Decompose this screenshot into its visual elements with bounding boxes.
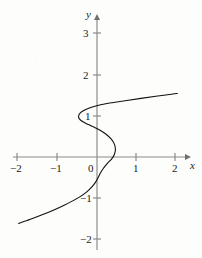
x-tick-label--2: −2 — [10, 163, 22, 174]
y-tick-label-3: 3 — [83, 28, 89, 39]
y-tick-label-1: 1 — [85, 111, 91, 122]
x-tick-label-2: 2 — [172, 163, 178, 174]
y-tick-label--2: −2 — [80, 234, 92, 245]
y-tick-label-2: 2 — [83, 70, 89, 81]
x-tick-label--1: −1 — [50, 163, 62, 174]
x-tick-label-0: 0 — [88, 163, 94, 174]
x-tick-label-1: 1 — [133, 163, 139, 174]
x-axis-label: x — [190, 160, 195, 171]
y-tick-label--1: −1 — [80, 193, 92, 204]
plot-canvas — [0, 0, 202, 258]
curve-cubic-s-shape — [19, 93, 178, 223]
graph-figure: −2 −1 0 1 2 3 2 1 −1 −2 y x — [0, 0, 202, 258]
y-axis-label: y — [86, 9, 91, 20]
